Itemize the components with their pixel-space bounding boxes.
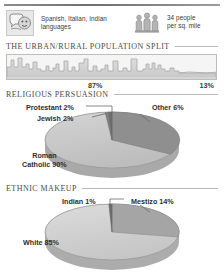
label-indian: Indian 1% — [62, 198, 96, 207]
infographic-page: Spanish, Italian, Indian languages 34 pe — [0, 0, 224, 274]
label-protestant: Protestant 2% — [26, 104, 74, 113]
header-rule — [114, 94, 218, 95]
urban-percent-label: 87% — [88, 81, 102, 90]
section-ethnic: ETHNIC MAKEUP — [6, 184, 218, 193]
label-other: Other 6% — [152, 104, 184, 113]
fact-density-text: 34 people per sq. mile — [167, 14, 201, 30]
speech-face-icon — [6, 10, 34, 36]
section-title-religion: RELIGIOUS PERSUASION — [6, 90, 109, 99]
label-mestizo: Mestizo 14% — [131, 198, 174, 207]
urban-rural-skyline-chart — [6, 54, 217, 80]
crowd-people-icon — [134, 10, 160, 34]
header-rule — [82, 188, 218, 189]
fact-row: Spanish, Italian, Indian languages 34 pe — [0, 10, 224, 40]
section-religion: RELIGIOUS PERSUASION — [6, 90, 218, 99]
fact-languages: Spanish, Italian, Indian languages — [6, 10, 107, 36]
label-white: White 85% — [23, 239, 59, 248]
rural-percent-label: 13% — [200, 81, 214, 90]
religion-pie-chart — [0, 100, 224, 184]
label-jewish: Jewish 2% — [37, 115, 73, 124]
fact-density: 34 people per sq. mile — [134, 10, 201, 34]
label-roman-catholic-line2: Catholic 90% — [22, 161, 67, 170]
section-title-ethnic: ETHNIC MAKEUP — [6, 184, 77, 193]
ethnic-pie-chart — [0, 194, 224, 274]
top-divider — [4, 4, 220, 6]
header-rule — [175, 46, 218, 47]
section-title-urban-rural: THE URBAN/RURAL POPULATION SPLIT — [6, 42, 170, 51]
urban-rural-values: 87% 13% — [6, 81, 217, 90]
section-urban-rural: THE URBAN/RURAL POPULATION SPLIT — [6, 42, 218, 51]
fact-languages-text: Spanish, Italian, Indian languages — [41, 15, 107, 31]
label-roman-catholic: Roman Catholic 90% — [22, 152, 67, 169]
